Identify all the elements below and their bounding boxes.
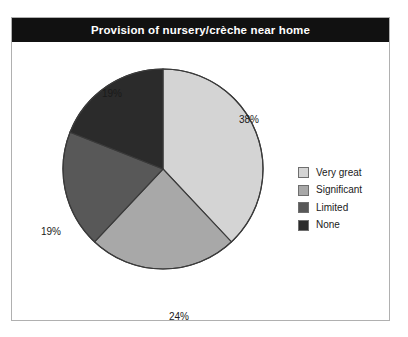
legend-label-very-great: Very great (316, 168, 362, 178)
legend-item-limited: Limited (298, 199, 386, 217)
legend-item-none: None (298, 217, 386, 235)
legend-swatch-significant (298, 185, 309, 196)
legend-item-very-great: Very great (298, 164, 386, 182)
pie-slice-group (63, 69, 263, 269)
pie-label-significant: 24% (169, 311, 189, 322)
legend-swatch-none (298, 220, 309, 231)
legend-label-none: None (316, 220, 340, 230)
legend-swatch-very-great (298, 167, 309, 178)
chart-frame: Provision of nursery/crèche near home 38… (11, 17, 390, 321)
page-title: Provision of nursery/crèche near home (91, 24, 310, 36)
plot-area: 38% 24% 19% 19% Very great Significant L… (12, 42, 389, 320)
pie-chart (62, 68, 264, 270)
legend-swatch-limited (298, 202, 309, 213)
legend-label-limited: Limited (316, 203, 348, 213)
chart-legend: Very great Significant Limited None (298, 164, 386, 234)
chart-title-bar: Provision of nursery/crèche near home (12, 18, 389, 42)
pie-label-none: 19% (102, 88, 122, 99)
legend-label-significant: Significant (316, 185, 362, 195)
pie-chart-svg (62, 68, 264, 270)
legend-item-significant: Significant (298, 182, 386, 200)
pie-label-limited: 19% (41, 226, 61, 237)
pie-label-very-great: 38% (239, 114, 259, 125)
